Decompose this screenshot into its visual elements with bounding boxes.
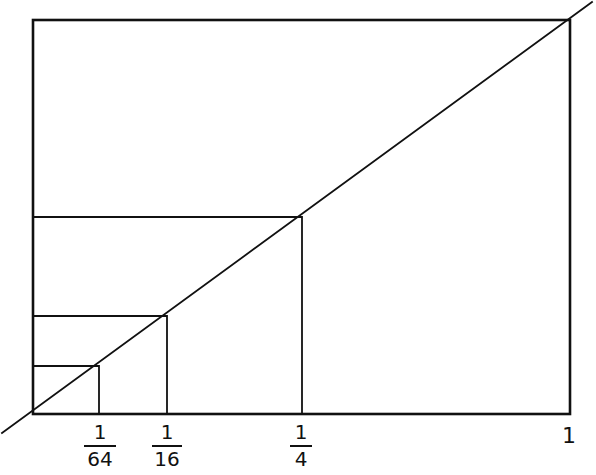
box-one-sixty-fourth: [33, 366, 99, 414]
label-numerator: 1: [152, 422, 182, 442]
label-numerator: 1: [290, 422, 312, 442]
label-denominator: 4: [290, 449, 312, 469]
unit-square-diagram: [0, 0, 596, 475]
label-numerator: 1: [84, 422, 116, 442]
box-one-sixteenth: [33, 316, 167, 414]
label-one-sixteenth: 1 16: [152, 422, 182, 469]
label-one-sixty-fourth: 1 64: [84, 422, 116, 469]
label-denominator: 16: [152, 449, 182, 469]
label-one-quarter: 1 4: [290, 422, 312, 469]
label-denominator: 64: [84, 449, 116, 469]
label-one: 1: [562, 425, 576, 447]
